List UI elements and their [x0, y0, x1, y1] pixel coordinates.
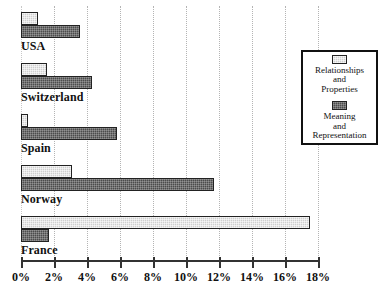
- bar-chart: USASwitzerlandSpainNorwayFrance Relation…: [0, 0, 384, 293]
- plot-area: USASwitzerlandSpainNorwayFrance: [21, 6, 318, 260]
- bar-relationships-and-properties: [21, 12, 38, 25]
- x-axis-tick: [318, 257, 320, 268]
- bar-relationships-and-properties: [21, 114, 28, 127]
- bar-meaning-and-representation: [21, 76, 92, 89]
- bar-relationships-and-properties: [21, 63, 47, 76]
- bar-meaning-and-representation: [21, 25, 80, 38]
- x-axis-tick-label: 12%: [207, 270, 231, 285]
- category-label: Spain: [21, 141, 51, 156]
- x-axis-tick: [120, 257, 122, 268]
- x-axis-tick: [252, 257, 254, 268]
- category-label: USA: [21, 39, 45, 54]
- bar-meaning-and-representation: [21, 178, 214, 191]
- light-swatch: [332, 55, 347, 64]
- x-axis-tick-label: 8%: [144, 270, 162, 285]
- x-axis-tick: [219, 257, 221, 268]
- dark-swatch: [332, 101, 347, 110]
- x-axis-tick-label: 2%: [45, 270, 63, 285]
- x-axis-tick: [21, 257, 23, 268]
- chart-legend: Relationships and Properties Meaning and…: [301, 50, 378, 145]
- x-axis-tick: [54, 257, 56, 268]
- x-axis-tick-label: 18%: [306, 270, 330, 285]
- x-axis-tick-label: 0%: [12, 270, 30, 285]
- legend-entry: Relationships and Properties: [304, 55, 375, 95]
- category-label: Norway: [21, 192, 62, 207]
- x-axis-tick: [153, 257, 155, 268]
- x-axis-tick-label: 14%: [240, 270, 264, 285]
- legend-label: Relationships and Properties: [315, 66, 364, 95]
- x-axis-tick: [285, 257, 287, 268]
- x-axis-tick-label: 4%: [78, 270, 96, 285]
- legend-label: Meaning and Representation: [313, 112, 367, 141]
- x-axis-tick-label: 6%: [111, 270, 129, 285]
- bar-meaning-and-representation: [21, 127, 117, 140]
- bar-relationships-and-properties: [21, 165, 72, 178]
- x-axis-tick-label: 10%: [174, 270, 198, 285]
- x-axis-line: [21, 260, 318, 262]
- legend-entry: Meaning and Representation: [304, 101, 375, 141]
- bar-meaning-and-representation: [21, 229, 49, 242]
- x-axis-tick: [87, 257, 89, 268]
- x-axis-tick-label: 16%: [273, 270, 297, 285]
- x-axis-tick: [186, 257, 188, 268]
- category-label: Switzerland: [21, 90, 83, 105]
- category-label: France: [21, 243, 58, 258]
- bar-relationships-and-properties: [21, 216, 310, 229]
